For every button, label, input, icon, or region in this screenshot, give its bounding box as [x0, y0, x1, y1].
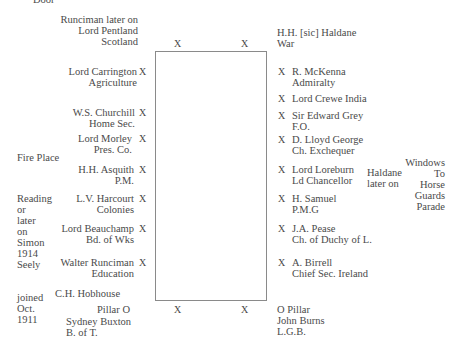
buxton-seat: Sydney Buxton B. of T. [66, 316, 131, 338]
seat-mark: X [278, 93, 285, 104]
left-seat-harcourt: L.V. Harcourt Colonies [76, 193, 134, 215]
seat-mark: X [278, 110, 285, 121]
seat-mark: X [278, 66, 285, 77]
seat-mark: X [278, 257, 285, 268]
right-seat-mckenna: R. McKenna Admiralty [292, 66, 346, 88]
fire-place-label: Fire Place [17, 152, 59, 163]
seat-mark: X [139, 133, 146, 144]
joined-note: joined Oct. 1911 [17, 292, 43, 325]
right-seat-lloyd-george: D. Lloyd George Ch. Exchequer [292, 134, 363, 156]
haldane-note: Haldane later on [367, 167, 402, 189]
seat-mark: X [139, 223, 146, 234]
hobhouse-label: C.H. Hobhouse [55, 288, 120, 299]
seat-mark-top-left: X [174, 38, 181, 49]
seat-mark-bottom-left: X [174, 304, 181, 315]
seat-mark: X [139, 164, 146, 175]
left-seat-churchill: W.S. Churchill Home Sec. [73, 107, 135, 129]
right-seat-grey: Sir Edward Grey F.O. [292, 110, 363, 132]
right-seat-birrell: A. Birrell Chief Sec. Ireland [292, 257, 368, 279]
seat-mark: X [278, 223, 285, 234]
seat-mark: X [278, 164, 285, 175]
seat-mark: X [139, 257, 146, 268]
seat-mark: X [278, 134, 285, 145]
left-seat-walter-runciman: Walter Runciman Education [60, 257, 134, 279]
left-seat-morley: Lord Morley Pres. Co. [78, 133, 132, 155]
windows-note: Windows To Horse Guards Parade [405, 157, 445, 212]
seat-mark: X [278, 193, 285, 204]
right-seat-pease: J.A. Pease Ch. of Duchy of L. [292, 223, 372, 245]
door-label: Door [33, 0, 55, 5]
left-seat-beauchamp: Lord Beauchamp Bd. of Wks [61, 223, 134, 245]
pillar-left-label: Pillar O [97, 304, 130, 315]
seat-mark-top-right: X [241, 38, 248, 49]
seat-mark: X [139, 66, 146, 77]
right-seat-loreburn: Lord Loreburn Ld Chancellor [292, 164, 354, 186]
seat-mark: X [139, 193, 146, 204]
seat-mark: X [139, 107, 146, 118]
right-seat-haldane: H.H. [sic] Haldane War [277, 27, 356, 49]
cabinet-table [155, 51, 267, 301]
right-seat-crewe: Lord Crewe India [292, 93, 367, 104]
left-seat-asquith: H.H. Asquith P.M. [78, 164, 134, 186]
right-seat-samuel: H. Samuel P.M.G [292, 193, 336, 215]
burns-seat: O Pillar John Burns L.G.B. [277, 304, 325, 337]
seat-mark-bottom-right: X [241, 304, 248, 315]
left-seat-carrington: Lord Carrington Agriculture [68, 66, 137, 88]
reading-note: Reading or later on Simon 1914 Seely [17, 193, 52, 270]
left-seat-runciman-pentland: Runciman later on Lord Pentland Scotland [60, 14, 138, 47]
